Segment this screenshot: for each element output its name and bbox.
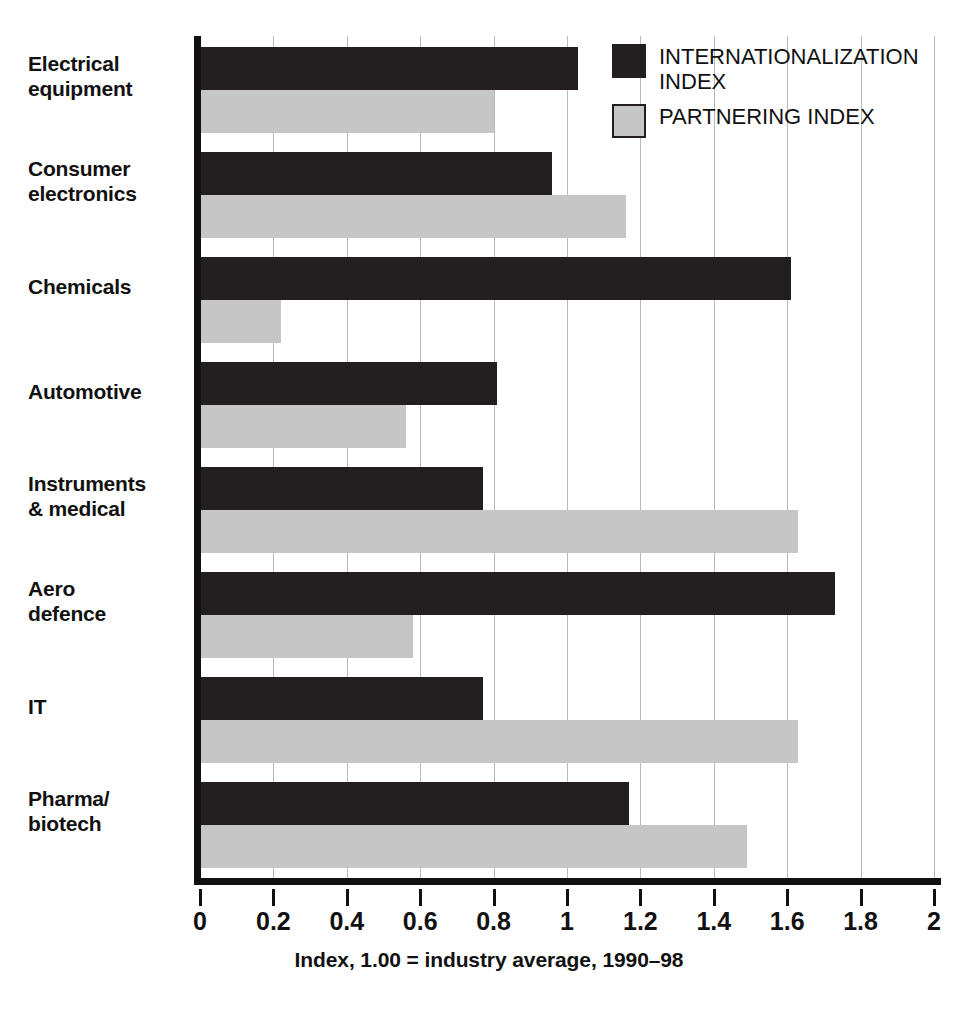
x-tick-label: 0.8 [476, 906, 511, 936]
bar [200, 90, 494, 133]
horizontal-bar-chart: ElectricalequipmentConsumerelectronicsCh… [0, 0, 978, 1014]
category-label-line: electronics [28, 181, 194, 206]
category-label: IT [28, 694, 194, 719]
x-tick-label: 1.2 [623, 906, 658, 936]
category-label-line: equipment [28, 76, 194, 101]
category-label-line: Chemicals [28, 274, 194, 299]
x-tick-mark [493, 889, 496, 906]
bar [200, 677, 483, 720]
legend-swatch-dark-icon [612, 44, 646, 78]
bar [200, 405, 406, 448]
bar [200, 572, 835, 615]
category-label: Pharma/biotech [28, 786, 194, 836]
category-label: Electricalequipment [28, 51, 194, 101]
x-tick-mark [639, 889, 642, 906]
category-label-line: Consumer [28, 156, 194, 181]
x-tick-mark [346, 889, 349, 906]
x-axis-title: Index, 1.00 = industry average, 1990–98 [0, 948, 978, 972]
legend: INTERNATIONALIZATION INDEX PARTNERING IN… [612, 44, 972, 148]
x-axis-line [194, 878, 941, 885]
x-tick-label: 1 [560, 906, 574, 936]
x-tick-label: 0.2 [256, 906, 291, 936]
x-tick-label: 0 [193, 906, 207, 936]
category-label-line: Pharma/ [28, 786, 194, 811]
bar [200, 362, 497, 405]
y-axis-line [194, 36, 201, 885]
category-label-line: Electrical [28, 51, 194, 76]
x-tick-label: 1.6 [770, 906, 805, 936]
x-tick-label: 1.8 [843, 906, 878, 936]
x-tick-mark [860, 889, 863, 906]
bar [200, 47, 578, 90]
gridline [934, 36, 935, 881]
bar [200, 615, 413, 658]
category-label: Consumerelectronics [28, 156, 194, 206]
x-tick-label: 0.4 [329, 906, 364, 936]
category-label-line: Aero [28, 576, 194, 601]
x-tick-mark [713, 889, 716, 906]
category-label-line: defence [28, 601, 194, 626]
category-label-line: biotech [28, 811, 194, 836]
category-label-line: Automotive [28, 379, 194, 404]
category-label: Chemicals [28, 274, 194, 299]
bar [200, 510, 798, 553]
x-tick-label: 2 [927, 906, 941, 936]
x-tick-mark [419, 889, 422, 906]
bar [200, 195, 626, 238]
category-label: Aerodefence [28, 576, 194, 626]
bar [200, 720, 798, 763]
bar [200, 300, 281, 343]
bar [200, 782, 629, 825]
legend-label: PARTNERING INDEX [659, 104, 875, 129]
x-tick-mark [566, 889, 569, 906]
bar [200, 152, 552, 195]
bar [200, 467, 483, 510]
legend-label: INTERNATIONALIZATION INDEX [659, 44, 959, 94]
x-tick-label: 0.6 [403, 906, 438, 936]
category-label: Automotive [28, 379, 194, 404]
legend-item-partnering-index: PARTNERING INDEX [612, 104, 972, 138]
x-tick-mark [272, 889, 275, 906]
legend-item-internationalization-index: INTERNATIONALIZATION INDEX [612, 44, 972, 94]
x-tick-mark [199, 889, 202, 906]
category-label-line: IT [28, 694, 194, 719]
category-label-line: Instruments [28, 471, 194, 496]
legend-swatch-light-icon [612, 104, 646, 138]
category-label: Instruments& medical [28, 471, 194, 521]
x-tick-label: 1.4 [696, 906, 731, 936]
category-label-line: & medical [28, 496, 194, 521]
x-tick-mark [933, 889, 936, 906]
bar [200, 257, 791, 300]
bars-layer [200, 36, 934, 881]
bar [200, 825, 747, 868]
x-tick-mark [786, 889, 789, 906]
